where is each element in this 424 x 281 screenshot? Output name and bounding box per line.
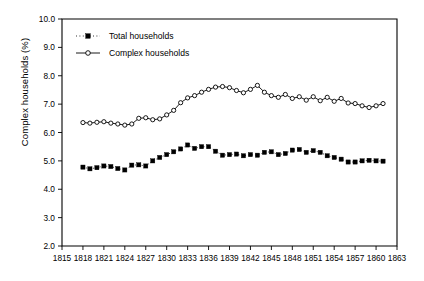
data-point-marker — [130, 122, 134, 126]
data-point-marker — [332, 155, 336, 159]
data-point-marker — [102, 164, 106, 168]
x-tick-label: 1833 — [178, 253, 197, 263]
data-point-marker — [269, 150, 273, 154]
data-point-marker — [248, 153, 252, 157]
data-point-marker — [151, 159, 155, 163]
data-point-marker — [172, 108, 176, 112]
y-tick-label: 7.0 — [43, 99, 55, 109]
data-point-marker — [234, 88, 238, 92]
x-tick-label: 1842 — [241, 253, 260, 263]
data-point-marker — [95, 120, 99, 124]
data-point-marker — [81, 165, 85, 169]
x-tick-label: 1863 — [388, 253, 407, 263]
y-tick-label: 8.0 — [43, 71, 55, 81]
x-tick-label: 1857 — [346, 253, 365, 263]
data-point-marker — [179, 147, 183, 151]
chart-figure: Complex households (%) 2.03.04.05.06.07.… — [0, 0, 424, 281]
data-point-marker — [116, 122, 120, 126]
y-tick-label: 3.0 — [43, 213, 55, 223]
x-tick-label: 1848 — [283, 253, 302, 263]
series-line — [83, 85, 383, 125]
x-tick-label: 1854 — [325, 253, 344, 263]
x-tick-label: 1851 — [304, 253, 323, 263]
legend-item: Complex households — [76, 48, 189, 58]
data-point-marker — [290, 148, 294, 152]
data-point-marker — [353, 160, 357, 164]
data-point-marker — [220, 153, 224, 157]
data-point-marker — [144, 116, 148, 120]
x-tick-label: 1824 — [116, 253, 135, 263]
data-point-marker — [165, 153, 169, 157]
series-line — [83, 145, 383, 170]
data-point-marker — [318, 99, 322, 103]
data-point-marker — [151, 118, 155, 122]
data-point-marker — [123, 123, 127, 127]
data-point-marker — [206, 145, 210, 149]
data-point-marker — [158, 155, 162, 159]
data-point-marker — [353, 101, 357, 105]
data-point-marker — [193, 146, 197, 150]
data-point-marker — [158, 117, 162, 121]
data-point-marker — [346, 160, 350, 164]
data-point-marker — [227, 86, 231, 90]
legend-label: Total households — [109, 31, 174, 41]
data-point-marker — [255, 153, 259, 157]
y-axis-ticks: 2.03.04.05.06.07.08.09.010.0 — [39, 14, 62, 251]
data-point-marker — [234, 152, 238, 156]
y-tick-label: 9.0 — [43, 42, 55, 52]
data-point-marker — [283, 151, 287, 155]
x-tick-label: 1860 — [367, 253, 386, 263]
data-point-marker — [276, 153, 280, 157]
x-tick-label: 1836 — [199, 253, 218, 263]
data-point-marker — [199, 90, 203, 94]
data-point-marker — [137, 163, 141, 167]
data-point-marker — [199, 145, 203, 149]
data-point-marker — [318, 150, 322, 154]
data-point-marker — [248, 87, 252, 91]
data-point-marker — [206, 87, 210, 91]
data-point-marker — [311, 149, 315, 153]
data-point-marker — [311, 95, 315, 99]
data-point-marker — [332, 99, 336, 103]
data-point-marker — [374, 104, 378, 108]
data-point-marker — [172, 150, 176, 154]
data-point-marker — [165, 113, 169, 117]
data-point-marker — [109, 121, 113, 125]
y-tick-label: 5.0 — [43, 156, 55, 166]
data-point-marker — [367, 105, 371, 109]
data-point-marker — [81, 120, 85, 124]
data-series-layer — [81, 83, 385, 172]
y-tick-label: 10.0 — [39, 14, 56, 24]
x-tick-label: 1839 — [220, 253, 239, 263]
data-point-marker — [346, 101, 350, 105]
chart-canvas: 2.03.04.05.06.07.08.09.010.0 18151818182… — [0, 0, 424, 281]
data-point-marker — [220, 84, 224, 88]
x-tick-label: 1821 — [95, 253, 114, 263]
legend-marker-swatch — [86, 51, 91, 56]
data-point-marker — [325, 95, 329, 99]
series-complex-households — [81, 83, 385, 127]
data-point-marker — [213, 149, 217, 153]
data-point-marker — [262, 90, 266, 94]
data-point-marker — [374, 159, 378, 163]
data-point-marker — [360, 159, 364, 163]
legend-item: Total households — [76, 31, 174, 41]
x-tick-label: 1818 — [74, 253, 93, 263]
data-point-marker — [130, 163, 134, 167]
data-point-marker — [297, 95, 301, 99]
legend-marker-swatch — [86, 34, 91, 39]
data-point-marker — [186, 143, 190, 147]
y-tick-label: 4.0 — [43, 184, 55, 194]
data-point-marker — [276, 95, 280, 99]
data-point-marker — [304, 150, 308, 154]
data-point-marker — [381, 159, 385, 163]
data-point-marker — [290, 96, 294, 100]
data-point-marker — [283, 92, 287, 96]
data-point-marker — [102, 120, 106, 124]
data-point-marker — [241, 91, 245, 95]
data-point-marker — [227, 153, 231, 157]
data-point-marker — [297, 147, 301, 151]
data-point-marker — [304, 98, 308, 102]
x-tick-label: 1845 — [262, 253, 281, 263]
data-point-marker — [123, 168, 127, 172]
